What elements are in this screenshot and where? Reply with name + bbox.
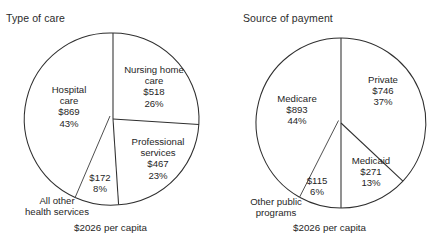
slice-label-all-other-name1: All other xyxy=(8,195,106,206)
slice-label-all-other-name: All other health services xyxy=(8,195,106,217)
slice-label-other-public-name1: Other public xyxy=(234,196,318,207)
slice-label-nursing-name2: care xyxy=(112,75,196,86)
slice-label-professional-name1: Professional xyxy=(118,136,198,147)
slice-label-medicaid-percent: 13% xyxy=(340,177,402,188)
slice-label-private: Private $746 37% xyxy=(355,74,411,108)
slice-label-hospital-name2: care xyxy=(38,95,100,106)
figure-root: Type of care Source of payment xyxy=(0,0,440,243)
slice-label-professional-name2: services xyxy=(118,147,198,158)
slice-label-nursing-home-care: Nursing home care $518 26% xyxy=(112,64,196,109)
slice-label-other-public-name2: programs xyxy=(234,207,318,218)
slice-label-other-public-value: $115 xyxy=(296,175,338,186)
slice-label-all-other-value: $172 xyxy=(78,172,122,183)
slice-label-medicare-percent: 44% xyxy=(266,115,328,126)
slice-label-professional-percent: 23% xyxy=(118,170,198,181)
slice-label-all-other-percent: 8% xyxy=(78,183,122,194)
slice-label-medicaid-value: $271 xyxy=(340,166,402,177)
slice-label-medicare-name: Medicare xyxy=(266,93,328,104)
left-pie-divider-nursing-professional xyxy=(113,119,199,124)
slice-label-hospital-care: Hospital care $869 43% xyxy=(38,84,100,129)
slice-label-private-name: Private xyxy=(355,74,411,85)
slice-label-other-public-name: Other public programs xyxy=(234,196,318,218)
slice-label-medicaid-name: Medicaid xyxy=(340,155,402,166)
slice-label-medicare: Medicare $893 44% xyxy=(266,93,328,127)
slice-label-nursing-percent: 26% xyxy=(112,98,196,109)
slice-label-professional-value: $467 xyxy=(118,158,198,169)
slice-label-other-public-values: $115 6% xyxy=(296,175,338,197)
slice-label-all-other-values: $172 8% xyxy=(78,172,122,194)
footer-per-capita-right: $2026 per capita xyxy=(293,222,366,233)
slice-label-private-percent: 37% xyxy=(355,96,411,107)
slice-label-hospital-name1: Hospital xyxy=(38,84,100,95)
slice-label-medicaid: Medicaid $271 13% xyxy=(340,155,402,189)
footer-per-capita-left: $2026 per capita xyxy=(74,222,147,233)
slice-label-private-value: $746 xyxy=(355,85,411,96)
slice-label-hospital-percent: 43% xyxy=(38,118,100,129)
slice-label-nursing-name1: Nursing home xyxy=(112,64,196,75)
slice-label-hospital-value: $869 xyxy=(38,106,100,117)
slice-label-all-other-name2: health services xyxy=(8,206,106,217)
slice-label-nursing-value: $518 xyxy=(112,86,196,97)
slice-label-medicare-value: $893 xyxy=(266,104,328,115)
slice-label-professional-services: Professional services $467 23% xyxy=(118,136,198,181)
